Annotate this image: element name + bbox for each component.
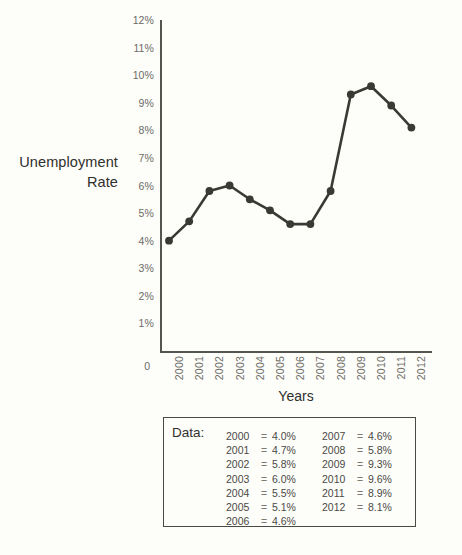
data-row-value: 5.8% — [272, 457, 304, 471]
data-row-equals: = — [352, 500, 368, 514]
data-table-row: 2002=5.8% — [226, 457, 304, 471]
x-tick-label: 2007 — [314, 356, 326, 380]
data-row-year: 2011 — [322, 486, 352, 500]
data-point-marker — [307, 220, 315, 228]
data-row-year: 2005 — [226, 500, 256, 514]
y-tick-label: 12% — [112, 14, 154, 26]
data-table-row: 2009=9.3% — [322, 457, 400, 471]
data-row-value: 4.6% — [272, 514, 304, 528]
x-tick-label: 2001 — [193, 356, 205, 380]
data-row-equals: = — [256, 500, 272, 514]
data-point-marker — [347, 91, 355, 99]
y-axis-title-line1: Unemployment — [10, 152, 118, 172]
data-table-box: Data: 2000=4.0%2001=4.7%2002=5.8%2003=6.… — [163, 417, 416, 527]
data-point-marker — [387, 102, 395, 110]
data-row-year: 2006 — [226, 514, 256, 528]
unemployment-series — [160, 20, 415, 353]
data-point-marker — [266, 206, 274, 214]
data-point-marker — [367, 82, 375, 90]
data-table-row: 2000=4.0% — [226, 429, 304, 443]
data-table-row: 2004=5.5% — [226, 486, 304, 500]
plot-area — [160, 20, 415, 352]
data-row-year: 2008 — [322, 443, 352, 457]
data-table-columns: 2000=4.0%2001=4.7%2002=5.8%2003=6.0%2004… — [226, 429, 400, 528]
data-row-equals: = — [256, 514, 272, 528]
y-tick-label: 8% — [112, 124, 154, 136]
x-tick-label: 2003 — [234, 356, 246, 380]
y-tick-label: 2% — [112, 290, 154, 302]
data-table-row: 2008=5.8% — [322, 443, 400, 457]
data-row-equals: = — [352, 457, 368, 471]
data-row-year: 2000 — [226, 429, 256, 443]
data-row-year: 2001 — [226, 443, 256, 457]
y-tick-label: 6% — [112, 180, 154, 192]
x-tick-label: 2002 — [213, 356, 225, 380]
data-point-marker — [408, 124, 416, 132]
data-row-year: 2010 — [322, 472, 352, 486]
data-table-row: 2006=4.6% — [226, 514, 304, 528]
y-tick-label: 5% — [112, 207, 154, 219]
x-axis-title: Years — [160, 388, 432, 404]
x-tick-label: 2008 — [335, 356, 347, 380]
x-tick-label: 2006 — [294, 356, 306, 380]
data-row-equals: = — [256, 429, 272, 443]
data-row-value: 5.8% — [368, 443, 400, 457]
data-table-row: 2012=8.1% — [322, 500, 400, 514]
x-tick-label: 2009 — [355, 356, 367, 380]
y-tick-label: 4% — [112, 235, 154, 247]
y-tick-label: 1% — [112, 317, 154, 329]
data-table-row: 2005=5.1% — [226, 500, 304, 514]
y-tick-label: 11% — [112, 42, 154, 54]
data-point-marker — [286, 220, 294, 228]
series-line — [169, 86, 411, 240]
y-tick-label: 7% — [112, 152, 154, 164]
data-row-year: 2007 — [322, 429, 352, 443]
data-row-equals: = — [352, 429, 368, 443]
data-row-equals: = — [256, 443, 272, 457]
y-axis-tick-labels: 12%11%10%9%8%7%6%5%4%3%2%1% — [108, 20, 154, 352]
data-row-year: 2004 — [226, 486, 256, 500]
data-row-value: 8.1% — [368, 500, 400, 514]
data-point-marker — [226, 182, 234, 190]
data-table-row: 2011=8.9% — [322, 486, 400, 500]
data-point-marker — [246, 195, 254, 203]
data-row-equals: = — [352, 443, 368, 457]
data-row-value: 6.0% — [272, 472, 304, 486]
data-point-marker — [185, 217, 193, 225]
data-row-equals: = — [352, 472, 368, 486]
data-row-value: 4.6% — [368, 429, 400, 443]
data-row-value: 5.5% — [272, 486, 304, 500]
data-table-title: Data: — [172, 425, 204, 440]
data-table-row: 2010=9.6% — [322, 472, 400, 486]
y-axis-origin-label: 0 — [108, 360, 150, 372]
data-row-year: 2002 — [226, 457, 256, 471]
data-row-value: 4.7% — [272, 443, 304, 457]
data-point-marker — [327, 187, 335, 195]
data-row-value: 9.6% — [368, 472, 400, 486]
data-row-equals: = — [256, 457, 272, 471]
y-axis-title-line2: Rate — [10, 172, 118, 192]
x-tick-label: 2004 — [254, 356, 266, 380]
data-row-value: 5.1% — [272, 500, 304, 514]
data-row-equals: = — [352, 486, 368, 500]
data-table-row: 2001=4.7% — [226, 443, 304, 457]
data-point-marker — [206, 187, 214, 195]
data-point-marker — [165, 237, 173, 245]
y-tick-label: 9% — [112, 97, 154, 109]
x-tick-label: 2005 — [274, 356, 286, 380]
data-row-equals: = — [256, 486, 272, 500]
data-row-year: 2012 — [322, 500, 352, 514]
x-tick-label: 2000 — [173, 356, 185, 380]
data-row-value: 4.0% — [272, 429, 304, 443]
y-tick-label: 10% — [112, 69, 154, 81]
data-row-value: 9.3% — [368, 457, 400, 471]
unemployment-rate-figure: Unemployment Rate 12%11%10%9%8%7%6%5%4%3… — [0, 0, 462, 555]
x-tick-label: 2011 — [395, 356, 407, 379]
y-axis-title: Unemployment Rate — [10, 152, 118, 192]
data-column-right: 2007=4.6%2008=5.8%2009=9.3%2010=9.6%2011… — [322, 429, 400, 528]
y-tick-label: 3% — [112, 262, 154, 274]
x-tick-label: 2012 — [415, 356, 427, 380]
data-row-value: 8.9% — [368, 486, 400, 500]
x-tick-label: 2010 — [375, 356, 387, 380]
data-table-row: 2007=4.6% — [322, 429, 400, 443]
